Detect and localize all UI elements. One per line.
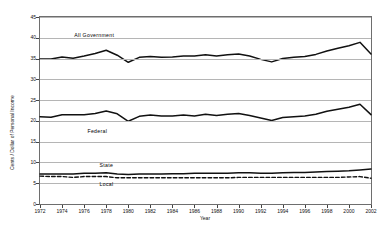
plot-area xyxy=(39,16,372,205)
x-tick-mark xyxy=(327,205,328,208)
chart-container: Cents / Dollar of Personal Income 051015… xyxy=(0,0,391,234)
x-tick-mark xyxy=(106,205,107,208)
y-tick-mark xyxy=(36,17,39,18)
series-line-federal xyxy=(40,104,371,121)
y-tick-label: 15 xyxy=(14,139,36,144)
x-tick-mark xyxy=(283,205,284,208)
y-tick-label: 30 xyxy=(14,77,36,82)
gridline-y xyxy=(40,142,371,143)
y-tick-label: 0 xyxy=(14,202,36,207)
y-tick-label: 25 xyxy=(14,98,36,103)
x-tick-mark xyxy=(40,205,41,208)
gridline-y xyxy=(40,183,371,184)
series-layer xyxy=(40,17,371,204)
y-tick-label: 5 xyxy=(14,181,36,186)
y-tick-mark xyxy=(36,38,39,39)
gridline-y xyxy=(40,38,371,39)
y-tick-mark xyxy=(36,162,39,163)
series-label-federal: Federal xyxy=(87,128,107,134)
x-tick-mark xyxy=(172,205,173,208)
x-tick-mark xyxy=(128,205,129,208)
y-tick-label: 40 xyxy=(14,35,36,40)
series-line-local xyxy=(40,176,371,178)
y-tick-mark xyxy=(36,204,39,205)
x-tick-mark xyxy=(194,205,195,208)
y-tick-mark xyxy=(36,59,39,60)
gridline-y xyxy=(40,17,371,18)
x-tick-mark xyxy=(84,205,85,208)
x-tick-mark xyxy=(62,205,63,208)
y-tick-label: 20 xyxy=(14,118,36,123)
series-line-state xyxy=(40,169,371,174)
x-tick-mark xyxy=(305,205,306,208)
x-tick-label: 2002 xyxy=(358,209,384,214)
y-tick-mark xyxy=(36,142,39,143)
x-tick-mark xyxy=(239,205,240,208)
series-label-state: State xyxy=(100,162,114,168)
gridline-y xyxy=(40,121,371,122)
series-label-local: Local xyxy=(100,181,114,187)
y-tick-label: 35 xyxy=(14,56,36,61)
y-axis-title: Cents / Dollar of Personal Income xyxy=(10,95,15,170)
y-tick-mark xyxy=(36,183,39,184)
series-label-all-government: All Government xyxy=(74,32,114,38)
x-tick-mark xyxy=(371,205,372,208)
gridline-y xyxy=(40,59,371,60)
x-axis-title: Year xyxy=(185,216,225,221)
y-tick-label: 10 xyxy=(14,160,36,165)
y-tick-mark xyxy=(36,79,39,80)
gridline-y xyxy=(40,100,371,101)
y-tick-mark xyxy=(36,100,39,101)
y-tick-mark xyxy=(36,121,39,122)
x-tick-mark xyxy=(150,205,151,208)
x-tick-mark xyxy=(217,205,218,208)
gridline-y xyxy=(40,162,371,163)
x-tick-mark xyxy=(349,205,350,208)
gridline-y xyxy=(40,79,371,80)
x-tick-mark xyxy=(261,205,262,208)
y-tick-label: 45 xyxy=(14,15,36,20)
